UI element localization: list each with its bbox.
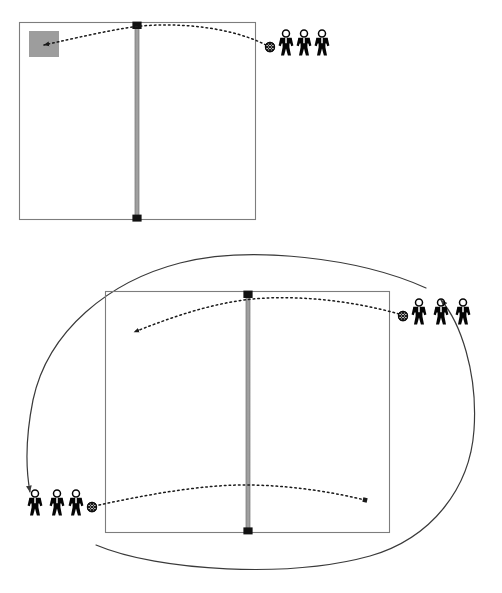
player-group-bottom-right [412,299,471,325]
target-zone-top [29,31,59,57]
player-figure [412,299,427,325]
bottom-drill-diagram [27,255,475,570]
net-post-bottom-upper [243,291,252,298]
rotation-arrow-right-to-left [27,255,426,492]
player-group-bottom-left [28,490,84,516]
net-bottom [243,291,252,535]
rotation-arrow-left-to-right [96,300,475,569]
clipped-caption-text [0,581,502,589]
player-figure [297,30,312,56]
drill-diagram-graphics [0,0,502,593]
ball-top-right [265,42,274,51]
player-figure [456,299,471,325]
ball-trajectory-bottom-lower [99,485,365,505]
player-figure [28,490,43,516]
player-figure [69,490,84,516]
diagram-canvas [0,0,502,593]
net-post-top-lower [132,215,141,222]
top-drill-diagram [20,22,330,222]
ball-bottom-right [398,311,407,320]
player-group-top-right [279,30,330,56]
player-figure [434,299,449,325]
net-top [132,22,141,222]
player-figure [50,490,65,516]
player-figure [315,30,330,56]
ball-bottom-left [87,502,96,511]
net-post-bottom-lower [243,527,252,534]
net-post-top-upper [132,22,141,29]
ball-trajectory-bottom-upper [134,298,399,332]
player-figure [279,30,294,56]
ball-trajectory-top [44,25,266,45]
